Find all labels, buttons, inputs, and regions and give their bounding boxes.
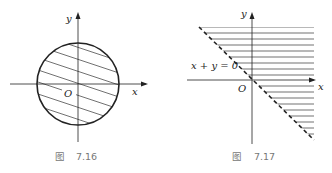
caption-prefix: 图 <box>55 151 65 162</box>
y-axis-label: y <box>240 8 247 19</box>
boundary-line-dashed <box>199 27 314 140</box>
diagram-canvas: y x O 图 7.16 <box>0 0 332 173</box>
origin-label: O <box>238 83 246 94</box>
caption-prefix: 图 <box>232 151 242 162</box>
y-axis-arrow-icon <box>250 12 255 19</box>
y-axis-label: y <box>65 13 72 24</box>
figure-7-16: y x O 图 7.16 <box>10 12 148 164</box>
x-axis-arrow-icon <box>309 78 316 83</box>
x-axis-label: x <box>318 81 324 92</box>
caption-number: 7.16 <box>76 151 97 162</box>
origin-label: O <box>64 88 72 99</box>
figure-7-17: y x O x + y = 0 图 7.17 <box>187 8 324 162</box>
x-axis-arrow-icon <box>141 82 148 87</box>
boundary-equation-label: x + y = 0 <box>191 60 239 71</box>
y-axis-arrow-icon <box>76 12 81 19</box>
x-axis-label: x <box>132 86 138 97</box>
caption-number: 7.17 <box>254 151 275 162</box>
